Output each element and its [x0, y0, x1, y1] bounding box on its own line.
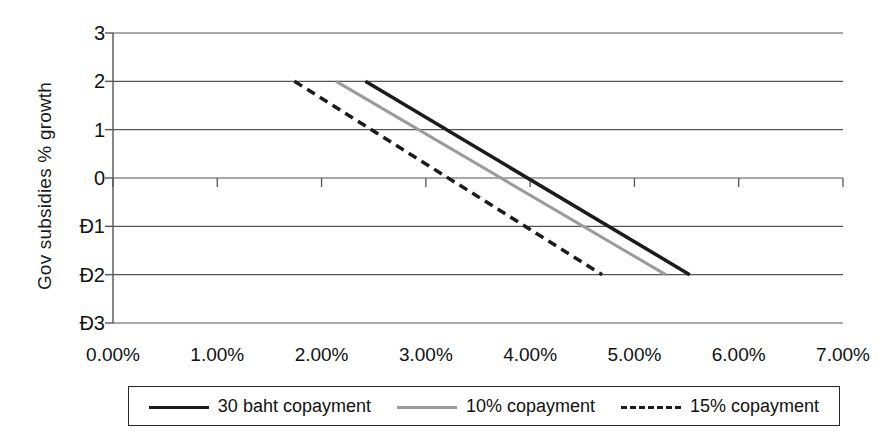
x-tick-label-0: 0.00%: [63, 344, 163, 366]
legend-entry-0[interactable]: 30 baht copayment: [149, 396, 371, 417]
legend-label-1: 10% copayment: [466, 396, 595, 417]
chart-legend: 30 baht copayment10% copayment15% copaym…: [128, 386, 840, 426]
x-tick-label-7: 7.00%: [793, 344, 890, 366]
x-tick-label-4: 4.00%: [480, 344, 580, 366]
legend-label-0: 30 baht copayment: [218, 396, 371, 417]
x-tick-label-2: 2.00%: [272, 344, 372, 366]
plot-area: [0, 0, 890, 380]
legend-label-2: 15% copayment: [690, 396, 819, 417]
x-tick-label-5: 5.00%: [584, 344, 684, 366]
x-axis-tick-marks: [113, 178, 843, 187]
legend-entry-1[interactable]: 10% copayment: [397, 396, 595, 417]
y-axis-line: [105, 33, 113, 323]
x-axis-tick-labels: 0.00%1.00%2.00%3.00%4.00%5.00%6.00%7.00%: [0, 344, 890, 372]
legend-swatch-solid-gray-icon: [397, 400, 457, 412]
x-tick-label-3: 3.00%: [376, 344, 476, 366]
chart-figure: Gov subsidies % growth 3210Đ1Đ2Đ3 0.00%1…: [0, 0, 890, 445]
legend-swatch-dashed-black-icon: [621, 400, 681, 412]
legend-entry-2[interactable]: 15% copayment: [621, 396, 819, 417]
legend-swatch-solid-black-icon: [149, 400, 209, 412]
x-tick-label-6: 6.00%: [689, 344, 789, 366]
gridlines: [113, 33, 843, 323]
x-tick-label-1: 1.00%: [167, 344, 267, 366]
